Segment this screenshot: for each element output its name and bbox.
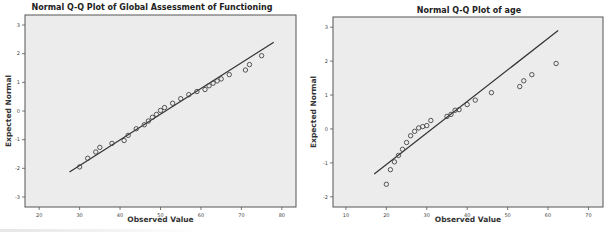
plot-area	[25, 15, 296, 207]
qq-plot-age: Normal Q-Q Plot of age3210-1-21020304050…	[305, 0, 611, 235]
x-tick-label: 40	[117, 212, 123, 218]
x-tick-label: 50	[504, 212, 510, 218]
x-axis-label: Observed Value	[435, 215, 501, 224]
x-tick-label: 20	[36, 212, 42, 218]
x-tick-label: 80	[279, 212, 285, 218]
plot-area	[333, 17, 603, 207]
y-axis-label: Expected Normal	[309, 76, 318, 148]
y-tick-label: 0	[325, 126, 328, 132]
x-tick-label: 20	[383, 212, 389, 218]
y-tick-label: -3	[15, 194, 20, 200]
y-tick-label: 2	[325, 58, 328, 64]
y-tick-label: 3	[325, 24, 328, 30]
x-tick-label: 30	[76, 212, 82, 218]
cropped-caption-remnant	[0, 229, 200, 232]
qq-plot-age-canvas: Normal Q-Q Plot of age3210-1-21020304050…	[305, 0, 611, 235]
y-tick-label: 3	[17, 22, 20, 28]
qq-plot-gaf: Normal Q-Q Plot of Global Assessment of …	[0, 0, 305, 235]
x-tick-label: 60	[545, 212, 551, 218]
y-tick-label: 0	[17, 108, 20, 114]
y-tick-label: 2	[17, 50, 20, 56]
y-axis-label: Expected Normal	[4, 75, 13, 147]
y-tick-label: 1	[17, 79, 20, 85]
y-tick-label: -2	[323, 194, 328, 200]
y-tick-label: 1	[325, 92, 328, 98]
chart-title: Normal Q-Q Plot of Global Assessment of …	[32, 3, 273, 12]
x-tick-label: 30	[424, 212, 430, 218]
x-tick-label: 70	[238, 212, 244, 218]
y-tick-label: -2	[15, 165, 20, 171]
x-tick-label: 10	[343, 212, 349, 218]
x-tick-label: 60	[198, 212, 204, 218]
y-tick-label: -1	[323, 160, 328, 166]
y-tick-label: -1	[15, 136, 20, 142]
qq-plot-gaf-canvas: Normal Q-Q Plot of Global Assessment of …	[0, 0, 305, 235]
x-tick-label: 70	[585, 212, 591, 218]
chart-title: Normal Q-Q Plot of age	[417, 6, 522, 15]
x-axis-label: Observed Value	[127, 215, 193, 224]
